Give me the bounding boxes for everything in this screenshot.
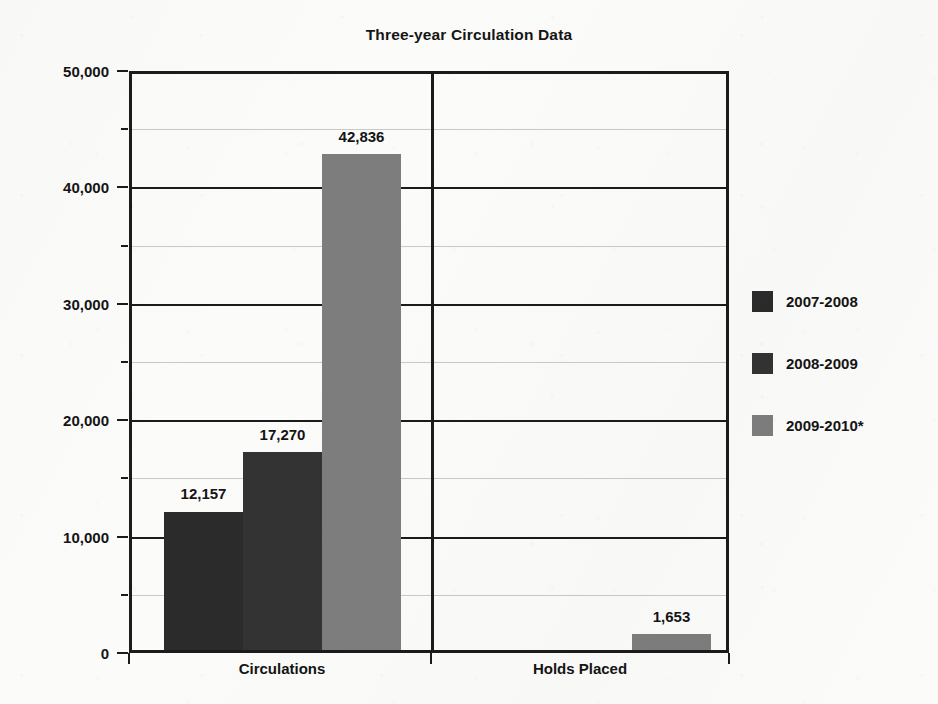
legend-swatch-icon [752, 415, 773, 436]
y-axis-tick-label: 40,000 [0, 179, 109, 196]
legend-item-3: 2009-2010* [752, 412, 922, 438]
y-tick-mark-minor [121, 477, 128, 479]
y-tick-mark-minor [121, 594, 128, 596]
bar-value-label: 42,836 [300, 128, 423, 145]
y-axis-tick-label: 10,000 [0, 528, 109, 545]
category-divider [431, 71, 434, 653]
bar-value-label: 17,270 [221, 426, 344, 443]
y-tick-mark-minor [121, 128, 128, 130]
legend-swatch-icon [752, 353, 773, 374]
bar-value-label: 12,157 [142, 485, 265, 502]
plot-frame [129, 71, 729, 653]
legend-item-1: 2007-2008 [752, 288, 922, 314]
legend-item-label: 2009-2010* [786, 417, 864, 434]
y-tick-mark [117, 70, 128, 72]
plot-area [129, 71, 729, 653]
y-axis-tick-label: 20,000 [0, 412, 109, 429]
chart-legend: 2007-20082008-20092009-2010* [752, 288, 922, 474]
y-tick-mark-minor [121, 361, 128, 363]
y-tick-mark [117, 419, 128, 421]
y-tick-mark [117, 303, 128, 305]
y-tick-mark [117, 536, 128, 538]
x-axis-category-label: Circulations [162, 660, 402, 677]
y-axis-tick-label: 50,000 [0, 63, 109, 80]
x-tick-mark [728, 653, 730, 664]
y-axis-tick-label: 30,000 [0, 295, 109, 312]
bar-value-label: 1,653 [610, 608, 733, 625]
y-tick-mark [117, 186, 128, 188]
x-axis-category-label: Holds Placed [460, 660, 700, 677]
legend-swatch-icon [752, 291, 773, 312]
y-axis-tick-label: 0 [0, 645, 109, 662]
x-tick-mark [128, 653, 130, 664]
chart-title: Three-year Circulation Data [0, 26, 938, 44]
legend-item-label: 2008-2009 [786, 355, 858, 372]
legend-item-label: 2007-2008 [786, 293, 858, 310]
y-tick-mark-minor [121, 245, 128, 247]
x-tick-mark [430, 653, 432, 664]
legend-item-2: 2008-2009 [752, 350, 922, 376]
y-tick-mark [117, 652, 128, 654]
